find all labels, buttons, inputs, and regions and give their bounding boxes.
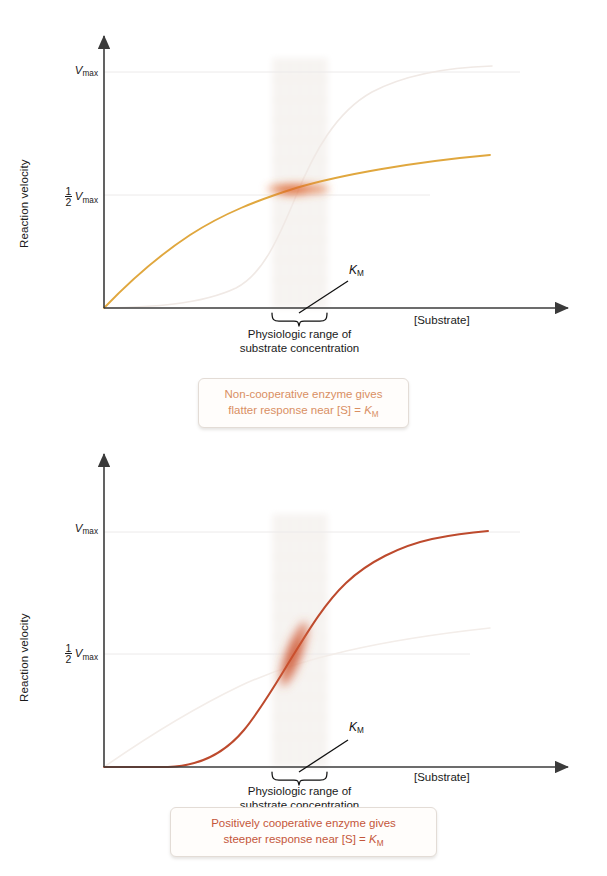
x-axis-title: [Substrate] (414, 314, 470, 326)
fraction-denominator: 2 (65, 653, 73, 665)
y-axis-title: Reaction velocity (18, 159, 30, 248)
note-km-sub: M (377, 839, 384, 848)
caption-line-1: Physiologic range of (248, 328, 352, 340)
panel-positively-cooperative: Reaction velocity Vmax 12Vmax [Substrate… (0, 440, 607, 876)
vmax-sub: max (83, 527, 98, 536)
half-vmax-sub: max (83, 196, 98, 205)
note-line-1: Positively cooperative enzyme gives (211, 817, 396, 829)
half-vmax-sub: max (83, 653, 98, 662)
note-km-k: K (369, 833, 377, 845)
fraction-numerator: 1 (65, 186, 73, 197)
one-half-fraction: 12 (65, 643, 73, 665)
km-label: KM (349, 263, 364, 277)
y-tick-half-vmax: 12Vmax (40, 186, 98, 208)
y-tick-half-vmax: 12Vmax (40, 643, 98, 665)
y-tick-vmax: Vmax (46, 522, 98, 534)
note-line-1: Non-cooperative enzyme gives (225, 388, 383, 400)
vmax-v: V (75, 64, 83, 76)
vmax-sub: max (83, 69, 98, 78)
note-box-positively-cooperative: Positively cooperative enzyme gives stee… (170, 807, 437, 857)
km-sub: M (357, 269, 364, 278)
vmax-v: V (75, 522, 83, 534)
fraction-denominator: 2 (65, 196, 73, 208)
panel-non-cooperative: Reaction velocity Vmax 12Vmax [Substrate… (0, 0, 607, 440)
note-line-2-text: steeper response near [S] = (224, 833, 369, 845)
axes (104, 36, 568, 308)
km-label: KM (349, 720, 364, 734)
x-axis-title: [Substrate] (414, 771, 470, 783)
physiologic-range-band (272, 58, 328, 308)
km-sub: M (357, 726, 364, 735)
y-tick-vmax: Vmax (46, 64, 98, 76)
half-vmax-v: V (75, 190, 83, 202)
note-line-2-text: flatter response near [S] = (228, 404, 364, 416)
note-km-k: K (364, 404, 372, 416)
one-half-fraction: 12 (65, 186, 73, 208)
half-vmax-v: V (75, 647, 83, 659)
note-box-non-cooperative: Non-cooperative enzyme gives flatter res… (198, 378, 409, 428)
y-axis-title: Reaction velocity (18, 613, 30, 702)
fraction-numerator: 1 (65, 643, 73, 654)
caption-line-2: substrate concentration (240, 342, 360, 354)
km-k: K (349, 263, 357, 277)
note-km-sub: M (372, 410, 379, 419)
physiologic-range-caption: Physiologic range of substrate concentra… (197, 327, 402, 355)
km-k: K (349, 720, 357, 734)
caption-line-1: Physiologic range of (248, 785, 352, 797)
physiologic-range-brace (272, 313, 327, 326)
axes (104, 454, 568, 767)
